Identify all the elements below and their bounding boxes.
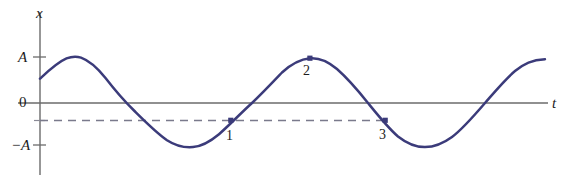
- tick-label-zero: 0: [19, 95, 27, 110]
- point-label-2: 2: [303, 64, 310, 78]
- marked-point-1: [228, 118, 233, 123]
- oscillation-graph-figure: x t A 0 −A 1 2 3: [0, 0, 572, 180]
- plot-canvas: [0, 0, 572, 180]
- sine-curve: [40, 57, 545, 148]
- marked-point-3: [383, 118, 388, 123]
- point-label-1: 1: [226, 129, 233, 143]
- y-axis-label: x: [36, 6, 43, 21]
- marked-point-2: [307, 56, 312, 61]
- tick-label-positive-amplitude: A: [18, 50, 27, 65]
- x-axis-label: t: [552, 96, 556, 111]
- tick-label-negative-amplitude: −A: [11, 138, 30, 153]
- point-label-3: 3: [379, 128, 386, 142]
